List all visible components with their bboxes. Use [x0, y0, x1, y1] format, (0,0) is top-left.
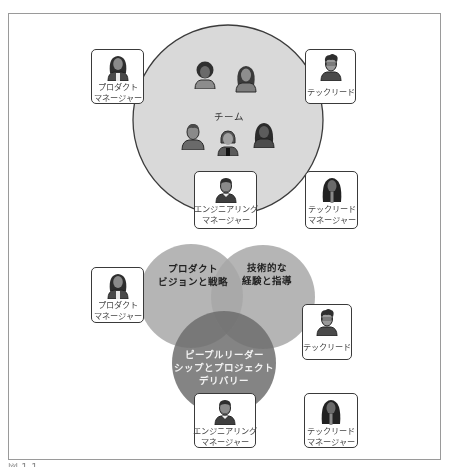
card-label-line1: テックリード — [308, 204, 356, 214]
card-label-line2: マネージャー — [202, 215, 250, 225]
product-manager-avatar-icon — [105, 53, 131, 81]
venn-people-line3: デリバリー — [169, 374, 279, 387]
venn-people-line2: シップとプロジェクト — [169, 361, 279, 374]
tech-lead-avatar-icon — [314, 308, 340, 336]
card-product-manager-bottom: プロダクト マネージャー — [91, 267, 144, 323]
card-engineering-manager-top: エンジニアリング マネージャー — [194, 171, 257, 229]
venn-people-line1: ピープルリーダー — [169, 348, 279, 361]
venn-label-product: プロダクト ビジョンと戦略 — [143, 262, 243, 288]
card-tech-lead-manager-top: テックリード マネージャー — [305, 171, 358, 229]
card-tech-lead-manager-bottom: テックリード マネージャー — [304, 393, 358, 448]
tech-lead-manager-avatar-icon — [319, 175, 345, 203]
card-label-line1: エンジニアリング — [193, 426, 257, 436]
venn-tech-line2: 経験と指導 — [237, 274, 297, 287]
card-label-line2: マネージャー — [94, 93, 142, 103]
venn-label-tech: 技術的な 経験と指導 — [237, 261, 297, 287]
engineering-manager-avatar-icon — [212, 397, 238, 425]
engineering-manager-avatar-icon — [213, 175, 239, 203]
venn-label-people: ピープルリーダー シップとプロジェクト デリバリー — [169, 348, 279, 387]
card-label-line2: マネージャー — [201, 437, 249, 447]
figure-caption-cropped: 図 1-1 ... — [8, 463, 50, 467]
venn-tech-line1: 技術的な — [237, 261, 297, 274]
card-tech-lead-top: テックリード — [305, 49, 356, 104]
card-label-line2: マネージャー — [307, 437, 355, 447]
card-label-line1: プロダクト — [98, 300, 138, 310]
team-member-short-hair-icon — [180, 122, 206, 150]
venn-product-line1: プロダクト — [143, 262, 243, 275]
card-tech-lead-bottom: テックリード — [302, 304, 352, 360]
team-member-bob-hair-icon — [215, 128, 241, 156]
card-product-manager-top: プロダクト マネージャー — [91, 49, 144, 104]
product-manager-avatar-icon — [105, 271, 131, 299]
team-member-afro-icon — [192, 61, 218, 89]
venn-product-line2: ビジョンと戦略 — [143, 275, 243, 288]
card-engineering-manager-bottom: エンジニアリング マネージャー — [194, 393, 256, 448]
card-label-line1: エンジニアリング — [194, 204, 258, 214]
tech-lead-manager-avatar-icon — [318, 397, 344, 425]
card-label-line1: テックリード — [303, 342, 351, 352]
card-label-line2: マネージャー — [94, 311, 142, 321]
card-label-line1: テックリード — [307, 426, 355, 436]
team-member-dark-hair-icon — [251, 120, 277, 148]
team-label: チーム — [214, 109, 244, 123]
card-label-line1: プロダクト — [98, 82, 138, 92]
card-label-line1: テックリード — [307, 87, 355, 97]
team-member-long-hair-icon — [233, 63, 259, 93]
card-label-line2: マネージャー — [308, 215, 356, 225]
tech-lead-avatar-icon — [318, 53, 344, 81]
